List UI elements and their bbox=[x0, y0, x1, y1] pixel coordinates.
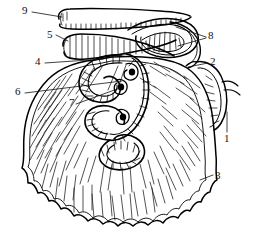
label-7: 7 bbox=[69, 97, 75, 108]
omentum-hatching bbox=[30, 62, 206, 220]
label-6: 6 bbox=[15, 86, 21, 97]
label-8: 8 bbox=[208, 30, 214, 41]
anatomical-figure: 9 5 8 4 2 6 7 1 3 bbox=[0, 0, 254, 238]
engraving-illustration bbox=[0, 0, 254, 238]
label-9: 9 bbox=[22, 5, 28, 16]
tube-hatching bbox=[63, 12, 181, 29]
greater-omentum bbox=[22, 56, 217, 226]
loop-hatching bbox=[149, 32, 181, 52]
label-1: 1 bbox=[224, 133, 230, 144]
label-3: 3 bbox=[215, 170, 221, 181]
label-2: 2 bbox=[210, 56, 216, 67]
label-5: 5 bbox=[47, 29, 53, 40]
coiled-small-intestine bbox=[79, 54, 150, 170]
label-4: 4 bbox=[35, 56, 41, 67]
